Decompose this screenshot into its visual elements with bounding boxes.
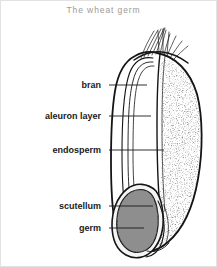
label-bran: bran [81,80,101,90]
wheat-germ-figure: The wheat germ [0,0,217,267]
wheat-grain-diagram [1,1,217,267]
label-endosperm: endosperm [52,145,101,155]
label-germ: germ [79,223,101,233]
label-aleuron-layer: aleuron layer [45,111,101,121]
label-scutellum: scutellum [59,201,101,211]
